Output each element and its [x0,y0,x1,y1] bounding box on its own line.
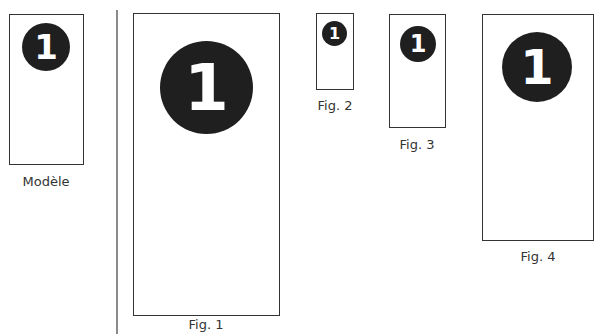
vertical-divider [116,10,118,334]
fig1-label: Fig. 1 [189,317,224,332]
number-one-badge-icon: 1 [322,21,347,46]
number-one-badge-icon: 1 [400,26,436,62]
number-one-badge-icon: 1 [160,41,253,134]
fig4-label: Fig. 4 [521,249,556,264]
fig3-label: Fig. 3 [400,137,435,152]
fig2-label: Fig. 2 [318,98,353,113]
number-one-badge-icon: 1 [22,23,70,71]
number-one-badge-icon: 1 [502,32,572,102]
modele-label: Modèle [22,174,69,189]
